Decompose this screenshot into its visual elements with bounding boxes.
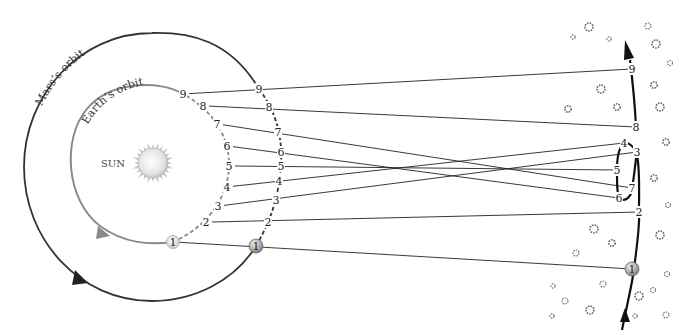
star-icon (668, 61, 673, 66)
mars-position-label: 2 (265, 216, 272, 229)
star-icon (600, 281, 606, 287)
earth-position-label: 2 (203, 216, 210, 229)
mars-position-label: 8 (266, 101, 273, 114)
mars-position-label: 4 (276, 175, 283, 188)
earth-position-label: 5 (226, 160, 233, 173)
star-icon (609, 240, 615, 246)
apparent-position-label: 7 (629, 182, 636, 195)
mars-position-label: 7 (275, 126, 282, 139)
apparent-position-label: 6 (616, 192, 623, 205)
lines-of-sight (179, 69, 639, 269)
star-icon (550, 314, 554, 318)
star-icon (656, 103, 664, 111)
background-stars (550, 23, 673, 318)
star-icon (633, 314, 637, 318)
apparent-position-label: 2 (636, 206, 643, 219)
mars-position-label: 9 (256, 83, 263, 96)
apparent-position-label: 3 (634, 146, 641, 159)
star-icon (585, 23, 593, 31)
mars-orbit-label: Mars’s orbit (33, 46, 88, 108)
star-icon (635, 292, 643, 300)
star-icon (665, 272, 670, 277)
star-icon (614, 104, 620, 110)
earth-position-label: 6 (224, 140, 231, 153)
mars-position-label: 6 (278, 146, 285, 159)
star-icon (666, 203, 671, 208)
earth-position-label: 4 (224, 181, 231, 194)
mars-position-label: 5 (278, 160, 285, 173)
star-icon (663, 139, 669, 145)
star-icon (607, 37, 611, 41)
star-icon (651, 175, 657, 181)
star-icon (645, 23, 651, 29)
star-icon (551, 284, 555, 288)
apparent-position-label: 4 (621, 137, 628, 150)
apparent-path-arrow-bottom-icon (620, 308, 630, 322)
sight-line-2 (212, 212, 639, 222)
star-icon (651, 82, 657, 88)
sun: SUN (101, 143, 173, 184)
star-icon (651, 288, 656, 293)
star-icon (652, 40, 660, 48)
sight-line-4 (233, 143, 624, 186)
star-icon (562, 298, 568, 304)
star-icon (586, 306, 594, 314)
star-icon (565, 106, 571, 112)
mars-position-label: 1 (253, 240, 260, 253)
star-icon (571, 35, 575, 39)
sun-label: SUN (101, 158, 125, 169)
earth-position-label: 8 (200, 100, 207, 113)
mars-position-label: 3 (273, 194, 280, 207)
apparent-position-label: 9 (629, 63, 636, 76)
earth-orbit-label: Earth’s orbit (79, 75, 145, 126)
star-icon (597, 85, 605, 93)
mars-orbit-arrow-icon (72, 270, 88, 285)
sight-line-6 (233, 147, 619, 198)
apparent-path-arrow-up-icon (624, 40, 634, 60)
star-icon (573, 250, 579, 256)
star-icon (590, 225, 598, 233)
apparent-position-label: 5 (614, 164, 621, 177)
sight-line-1 (179, 242, 632, 269)
earth-position-label: 7 (214, 118, 221, 131)
earth-position-markers: 123456789 (167, 88, 234, 249)
earth-position-label: 9 (180, 88, 187, 101)
retrograde-motion-diagram: Mars’s orbit Earth’s orbit SUN 123456789… (0, 0, 694, 335)
earth-position-label: 3 (215, 200, 222, 213)
sight-line-3 (224, 152, 637, 205)
sight-line-5 (235, 166, 617, 170)
earth-position-label: 1 (170, 236, 177, 249)
star-icon (663, 312, 669, 318)
apparent-position-label: 8 (633, 121, 640, 134)
apparent-position-label: 1 (629, 263, 636, 276)
star-icon (656, 231, 664, 239)
